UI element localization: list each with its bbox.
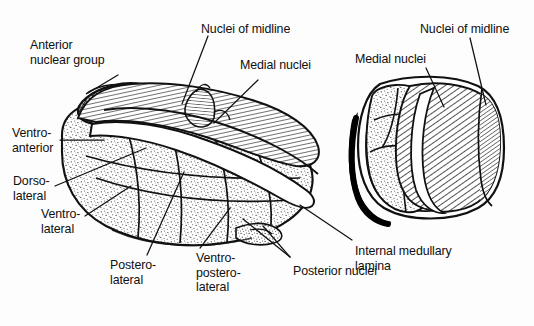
label-medial-nuclei-right: Medial nuclei [355,52,426,67]
label-ventro-anterior: Ventro- anterior [12,126,53,155]
leader-internal-medullary-lamina [300,205,352,240]
label-nuclei-of-midline-left: Nuclei of midline [201,22,290,37]
figure-canvas: Anterior nuclear group Ventro- anterior … [0,0,534,326]
label-dorso-lateral: Dorso- lateral [13,174,50,203]
label-ventro-lateral: Ventro- lateral [41,207,80,236]
label-postero-lateral: Postero- lateral [110,258,156,287]
label-anterior-nuclear-group: Anterior nuclear group [30,38,104,67]
section-thalamus-figure [349,75,510,224]
label-ventro-postero-lateral: Ventro- postero- lateral [196,251,241,295]
label-medial-nuclei-left: Medial nuclei [240,58,311,73]
main-thalamus-figure [50,75,340,260]
posterior-nuclei-region [236,224,282,245]
label-posterior-nuclei: Posterior nuclei [293,264,377,279]
label-nuclei-of-midline-right: Nuclei of midline [420,22,509,37]
